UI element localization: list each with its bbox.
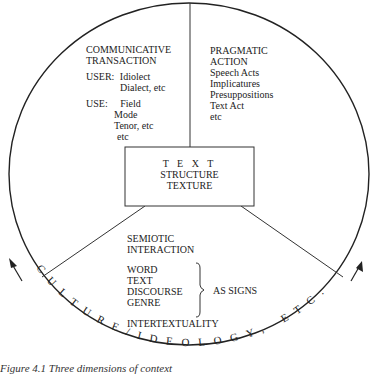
sign-item: TEXT <box>127 275 219 286</box>
text-box-label: T E X T STRUCTURE TEXTURE <box>125 158 254 191</box>
arrow-right-icon <box>351 261 363 281</box>
box-line-structure: STRUCTURE <box>125 169 254 180</box>
pa-item: etc <box>210 111 273 122</box>
user-label: USER: <box>86 71 114 82</box>
pragmatic-action: PRAGMATIC ACTION Speech Acts Implicature… <box>210 45 273 122</box>
si-title-1: SEMIOTIC <box>127 233 219 244</box>
pa-item: Implicatures <box>210 78 273 89</box>
divider-lower-right <box>241 206 343 277</box>
box-line-text: T E X T <box>125 158 254 169</box>
arrow-left-icon <box>9 258 22 281</box>
semiotic-interaction: SEMIOTIC INTERACTION WORD TEXT DISCOURSE… <box>127 233 219 329</box>
pa-title-2: ACTION <box>210 56 273 67</box>
box-line-texture: TEXTURE <box>125 180 254 191</box>
use-item: Tenor, etc <box>86 120 171 131</box>
ct-title-1: COMMUNICATIVE <box>86 44 171 55</box>
communicative-transaction: COMMUNICATIVE TRANSACTION USER: Idiolect… <box>86 44 171 142</box>
use-item: Field <box>120 98 141 109</box>
pa-item: Text Act <box>210 100 273 111</box>
pa-title-1: PRAGMATIC <box>210 45 273 56</box>
pa-item: Presuppositions <box>210 89 273 100</box>
user-item: Dialect, etc <box>86 82 171 93</box>
intertextuality-label: INTERTEXTUALITY <box>127 318 219 329</box>
as-signs-label: AS SIGNS <box>213 285 257 296</box>
ct-title-2: TRANSACTION <box>86 55 171 66</box>
user-item: Idiolect <box>120 71 151 82</box>
sign-item: DISCOURSE <box>127 286 219 297</box>
use-item: Mode <box>86 109 171 120</box>
si-title-2: INTERACTION <box>127 244 219 255</box>
sign-item: GENRE <box>127 297 219 308</box>
pa-item: Speech Acts <box>210 67 273 78</box>
use-item: etc <box>86 131 171 142</box>
use-label: USE: <box>86 98 108 109</box>
sign-item: WORD <box>127 264 219 275</box>
figure-caption: Figure 4.1 Three dimensions of context <box>0 362 172 374</box>
